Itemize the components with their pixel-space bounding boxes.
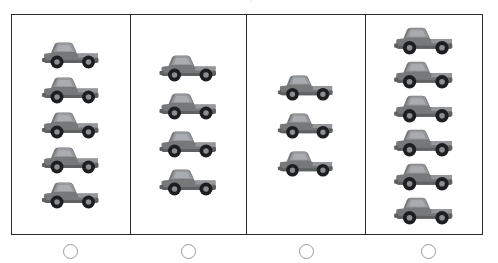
answer-option-row bbox=[11, 239, 483, 263]
truck-stack-2 bbox=[157, 51, 220, 198]
pickup-truck-icon bbox=[40, 38, 102, 71]
pickup-truck-icon bbox=[276, 71, 336, 103]
pictograph-panel-1[interactable] bbox=[12, 15, 130, 234]
answer-option-cell-4[interactable] bbox=[365, 239, 483, 263]
pickup-truck-icon bbox=[391, 57, 457, 91]
answer-option-cell-3[interactable] bbox=[246, 239, 365, 263]
answer-bubble-icon-1[interactable] bbox=[63, 244, 78, 259]
pickup-truck-icon bbox=[391, 23, 457, 57]
truck-stack-3 bbox=[276, 71, 336, 179]
pickup-truck-icon bbox=[40, 143, 102, 176]
truck-stack-1 bbox=[40, 38, 102, 211]
answer-bubble-icon-2[interactable] bbox=[181, 244, 196, 259]
pictograph-frame bbox=[11, 14, 483, 235]
answer-bubble-icon-3[interactable] bbox=[299, 244, 314, 259]
pickup-truck-icon bbox=[276, 147, 336, 179]
clipped-page-title: How many trucks? bbox=[0, 0, 498, 3]
pickup-truck-icon bbox=[276, 109, 336, 141]
pickup-truck-icon bbox=[157, 165, 220, 198]
pickup-truck-icon bbox=[157, 89, 220, 122]
pickup-truck-icon bbox=[391, 193, 457, 227]
pickup-truck-icon bbox=[40, 73, 102, 106]
truck-stack-4 bbox=[391, 23, 457, 227]
pickup-truck-icon bbox=[40, 108, 102, 141]
pickup-truck-icon bbox=[391, 159, 457, 193]
answer-option-cell-2[interactable] bbox=[129, 239, 246, 263]
pickup-truck-icon bbox=[157, 51, 220, 84]
pickup-truck-icon bbox=[157, 127, 220, 160]
pictograph-panel-3[interactable] bbox=[246, 15, 365, 234]
pickup-truck-icon bbox=[391, 91, 457, 125]
pickup-truck-icon bbox=[391, 125, 457, 159]
pickup-truck-icon bbox=[40, 178, 102, 211]
pictograph-panel-4[interactable] bbox=[365, 15, 483, 234]
pictograph-panel-2[interactable] bbox=[130, 15, 247, 234]
answer-bubble-icon-4[interactable] bbox=[421, 244, 436, 259]
answer-option-cell-1[interactable] bbox=[11, 239, 129, 263]
